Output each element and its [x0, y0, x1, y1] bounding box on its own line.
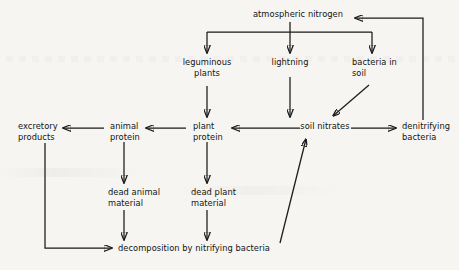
node-dead-animal-material: dead animal material — [108, 187, 160, 208]
node-bacteria-in-soil: bacteria in soil — [352, 57, 397, 78]
diagram-connectors — [0, 0, 459, 270]
edge-bacteria-soil-to-soil-nitrates — [333, 85, 369, 116]
edge-decomposition-to-soil-nitrates — [280, 139, 306, 243]
edge-excretory-to-decomposition — [45, 143, 112, 248]
edge-atm-bus — [207, 22, 372, 32]
node-leguminous-plants: leguminous plants — [183, 57, 232, 78]
node-decomposition-by-nitrifying-bacteria: decomposition by nitrifying bacteria — [118, 243, 270, 254]
node-lightning: lightning — [272, 57, 309, 68]
node-animal-protein: animal protein — [110, 121, 140, 142]
node-excretory-products: excretory products — [18, 121, 58, 142]
node-denitrifying-bacteria: denitrifying bacteria — [402, 121, 450, 142]
nitrogen-cycle-diagram: atmospheric nitrogen leguminous plants l… — [0, 0, 459, 270]
node-atmospheric-nitrogen: atmospheric nitrogen — [253, 9, 343, 20]
node-soil-nitrates: soil nitrates — [300, 121, 349, 132]
node-plant-protein: plant protein — [193, 121, 223, 142]
node-dead-plant-material: dead plant material — [191, 187, 236, 208]
